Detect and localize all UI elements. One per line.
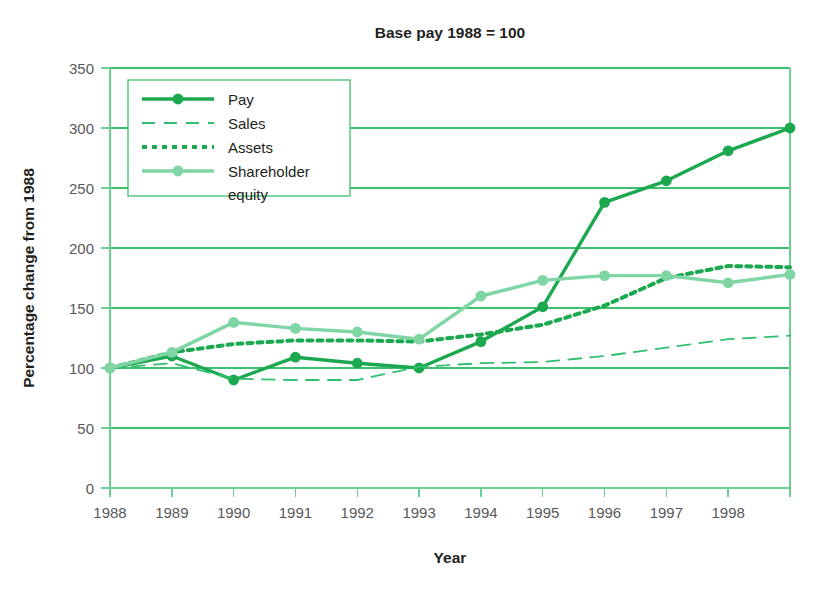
x-tick-label: 1993 (402, 504, 435, 521)
data-point (661, 270, 672, 281)
x-tick-label: 1996 (588, 504, 621, 521)
data-point (476, 336, 487, 347)
x-tick-label: 1998 (711, 504, 744, 521)
line-chart-figure: Base pay 1988 = 100050100150200250300350… (0, 0, 817, 592)
data-point (599, 270, 610, 281)
data-point (537, 301, 548, 312)
x-axis-title: Year (434, 549, 467, 566)
x-tick-label: 1992 (341, 504, 374, 521)
data-point (476, 291, 487, 302)
y-tick-label: 350 (69, 60, 94, 77)
x-ticks: 1988198919901991199219931994199519961997… (93, 488, 790, 521)
legend-marker (173, 94, 184, 105)
data-point (228, 375, 239, 386)
y-tick-label: 100 (69, 360, 94, 377)
data-point (228, 317, 239, 328)
series-shareholder-equity (105, 269, 796, 373)
y-tick-label: 150 (69, 300, 94, 317)
data-point (105, 363, 116, 374)
data-point (785, 123, 796, 134)
data-point (352, 358, 363, 369)
legend-label: equity (228, 186, 269, 203)
x-tick-label: 1997 (650, 504, 683, 521)
y-tick-label: 300 (69, 120, 94, 137)
data-point (290, 352, 301, 363)
data-point (352, 327, 363, 338)
legend-label: Shareholder (228, 163, 310, 180)
data-point (537, 275, 548, 286)
legend: PaySalesAssetsShareholderequity (128, 80, 350, 203)
legend-label: Sales (228, 115, 266, 132)
y-tick-label: 0 (86, 480, 94, 497)
legend-label: Assets (228, 139, 273, 156)
legend-label: Pay (228, 91, 254, 108)
data-point (661, 175, 672, 186)
data-point (723, 277, 734, 288)
x-tick-label: 1994 (464, 504, 497, 521)
x-tick-label: 1991 (279, 504, 312, 521)
x-tick-label: 1988 (93, 504, 126, 521)
data-point (414, 334, 425, 345)
data-point (723, 145, 734, 156)
y-tick-label: 200 (69, 240, 94, 257)
data-point (599, 197, 610, 208)
y-tick-label: 250 (69, 180, 94, 197)
y-axis-title: Percentage change from 1988 (20, 168, 37, 388)
y-tick-label: 50 (77, 420, 94, 437)
data-point (785, 269, 796, 280)
legend-marker (173, 166, 184, 177)
chart-title: Base pay 1988 = 100 (375, 24, 525, 41)
data-point (166, 347, 177, 358)
x-tick-label: 1989 (155, 504, 188, 521)
data-point (290, 323, 301, 334)
x-tick-label: 1990 (217, 504, 250, 521)
x-tick-label: 1995 (526, 504, 559, 521)
